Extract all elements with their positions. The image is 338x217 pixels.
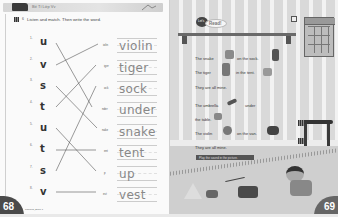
book-spread: Bé Tí Lớp Vv 6 Listen and match. Then wr…: [0, 0, 338, 217]
item-letter: s: [40, 165, 46, 176]
word-box[interactable]: tiger: [117, 60, 157, 75]
item-partial: iolin: [103, 43, 108, 47]
qr-code-icon[interactable]: [298, 138, 304, 144]
page-number: 69: [324, 201, 335, 212]
violin-picture: [223, 126, 232, 135]
page-border: [5, 14, 6, 204]
lets-read-badge: Let's Read!: [196, 15, 230, 29]
item-partial: nake: [102, 128, 108, 132]
banner-text: Play the sound in the picture.: [199, 156, 238, 160]
window: [304, 17, 334, 57]
umbrella-picture: [227, 98, 238, 106]
item-number: 4.: [30, 100, 33, 104]
instruction: Listen and match. Then write the word.: [27, 17, 101, 22]
van-picture: [267, 126, 279, 135]
sentence: the table.: [195, 117, 211, 122]
sentence: They are all mine.: [195, 145, 227, 150]
sentence: in the tent.: [236, 70, 255, 75]
instruction-banner: Play the sound in the picture.: [196, 155, 254, 160]
right-page: Let's Read! The snake on the sock. The t…: [170, 0, 338, 214]
toy-van: [238, 186, 258, 198]
item-letter: s: [40, 80, 46, 91]
word-answer: violin: [119, 39, 153, 54]
item-letter: v: [40, 59, 47, 70]
header-decoration-icon: [140, 3, 158, 11]
word-answer: under: [119, 103, 156, 118]
qr-code-icon[interactable]: [298, 120, 304, 126]
unit-tab: [12, 3, 28, 11]
word-box[interactable]: under: [117, 102, 157, 117]
item-partial: p: [104, 171, 106, 175]
exercise-number: 6: [22, 17, 24, 21]
item-number: 3.: [30, 78, 33, 82]
sentence: The snake: [195, 56, 214, 61]
item-number: 1.: [30, 36, 33, 40]
qr-code-icon[interactable]: [14, 17, 19, 22]
item-partial: ent: [104, 149, 108, 153]
item-number: 2.: [30, 57, 33, 61]
left-page: Bé Tí Lớp Vv 6 Listen and match. Then wr…: [0, 0, 170, 214]
sentence: The umbrella: [195, 103, 218, 108]
badge-read: Read!: [209, 21, 222, 26]
item-letter: u: [40, 122, 47, 133]
footer-text: Phonics_Book 1: [25, 208, 43, 211]
shelf: [178, 33, 296, 36]
item-partial: ock: [104, 86, 108, 90]
word-answer: sock: [119, 82, 147, 97]
word-box[interactable]: tent: [117, 145, 157, 160]
qr-label: ...: [305, 141, 307, 144]
word-answer: tiger: [119, 61, 148, 76]
item-letter: v: [40, 186, 47, 197]
badge-lets: Let's: [198, 19, 204, 23]
word-box[interactable]: sock: [117, 81, 157, 96]
word-box[interactable]: vest: [117, 187, 157, 202]
sock-picture: [272, 49, 279, 61]
item-letter: t: [40, 143, 45, 154]
shelf-bracket: [286, 36, 291, 44]
word-box[interactable]: up: [117, 166, 157, 181]
item-number: 7.: [30, 165, 33, 169]
sentence: on the van.: [237, 131, 257, 136]
item-letter: t: [40, 101, 45, 112]
table-leg: [327, 124, 330, 146]
sentence: on the sock.: [237, 56, 259, 61]
item-letter: u: [40, 36, 47, 47]
toy-tent: [184, 183, 202, 199]
sentence: The tiger: [195, 70, 211, 75]
page-number: 68: [3, 201, 14, 212]
item-number: 6.: [30, 143, 33, 147]
snake-picture: [225, 50, 234, 59]
shelf-bracket: [182, 36, 187, 44]
window-panes: [308, 26, 330, 53]
item-partial: iger: [104, 64, 109, 68]
tiger-picture: [222, 63, 230, 76]
calendar-icon: [291, 16, 297, 22]
curtain: [305, 18, 335, 25]
item-partial: est: [103, 192, 107, 196]
header-title: Bé Tí Lớp Vv: [32, 4, 55, 9]
word-answer: up: [119, 167, 135, 182]
tent-picture: [263, 68, 272, 76]
word-box[interactable]: violin: [117, 38, 157, 53]
word-answer: vest: [119, 188, 146, 203]
item-number: 5.: [30, 122, 33, 126]
toy-animal: [206, 190, 218, 198]
word-box[interactable]: snake: [117, 124, 157, 139]
sentence: under: [245, 103, 255, 108]
table-picture: [214, 113, 222, 120]
sentence: They are all mine.: [195, 85, 227, 90]
item-partial: nder: [102, 107, 108, 111]
sentence: The violin: [195, 131, 212, 136]
word-answer: snake: [119, 125, 156, 140]
qr-label: ...: [305, 123, 307, 126]
boy-body: [290, 180, 312, 196]
word-answer: tent: [119, 146, 145, 161]
item-number: 8.: [30, 186, 33, 190]
